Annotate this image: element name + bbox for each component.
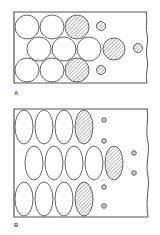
small-particle (97, 66, 106, 75)
panel-a-break-edge (146, 12, 148, 83)
panel-a-label: A (14, 90, 18, 96)
panel-b (14, 109, 148, 217)
open-ellipse (55, 110, 73, 144)
panel-b-label: B (14, 222, 18, 228)
small-particle (132, 151, 137, 156)
hatched-circle (103, 38, 125, 60)
small-particle (102, 185, 107, 190)
hatched-ellipse (75, 110, 93, 144)
small-particle (97, 22, 106, 31)
small-particle (102, 118, 107, 123)
hatched-circle (65, 15, 89, 39)
open-ellipse (15, 110, 33, 144)
hatched-circle (65, 58, 89, 82)
hatched-ellipse (75, 182, 93, 216)
open-ellipse (65, 146, 83, 180)
open-ellipse (55, 182, 73, 216)
open-ellipse (35, 182, 53, 216)
open-ellipse (85, 146, 103, 180)
open-ellipse (15, 182, 33, 216)
figure-canvas (0, 0, 160, 235)
small-particle (102, 204, 107, 209)
panel-a-large-elements (15, 15, 125, 82)
open-circle (52, 37, 76, 61)
small-particle (132, 171, 137, 176)
open-ellipse (35, 110, 53, 144)
panel-b-break-edge (147, 109, 149, 217)
hatched-ellipse (105, 146, 123, 180)
open-circle (40, 58, 64, 82)
panel-a (14, 12, 148, 83)
open-circle (40, 15, 64, 39)
open-circle (15, 58, 39, 82)
open-circle (27, 37, 51, 61)
small-particle (102, 139, 107, 144)
open-ellipse (25, 146, 43, 180)
panel-b-large-elements (15, 110, 123, 216)
open-circle (77, 37, 101, 61)
small-particle (134, 44, 143, 53)
open-ellipse (45, 146, 63, 180)
open-circle (15, 15, 39, 39)
